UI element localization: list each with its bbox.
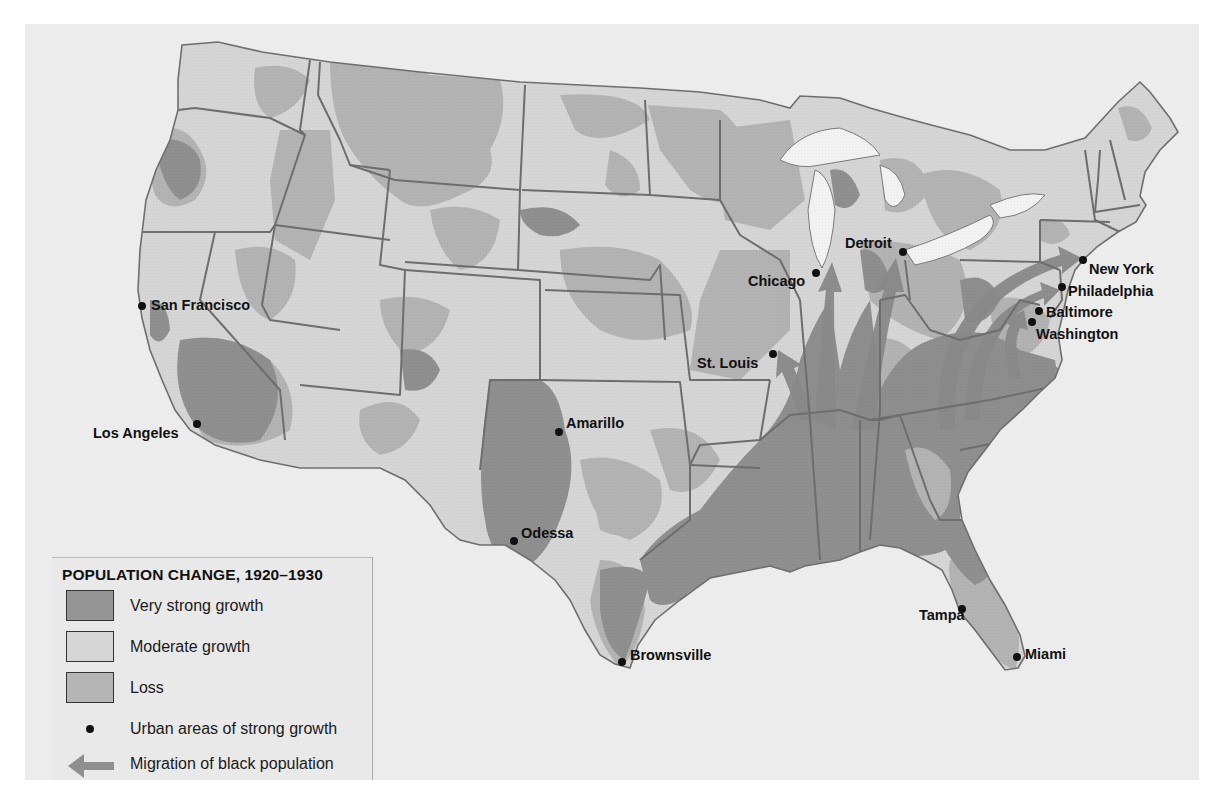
city-label-washington: Washington (1036, 327, 1118, 342)
city-label-chicago: Chicago (748, 274, 805, 289)
legend-item-urban-areas: Urban areas of strong growth (66, 713, 366, 747)
dot-icon (812, 269, 820, 277)
legend-label: Urban areas of strong growth (130, 720, 337, 738)
dot-icon (193, 420, 201, 428)
city-label-detroit: Detroit (845, 236, 892, 251)
moderate-growth-swatch-icon (66, 631, 114, 662)
dot-icon (618, 658, 626, 666)
dot-icon (1079, 256, 1087, 264)
dot-icon (1013, 653, 1021, 661)
dot-icon (1035, 307, 1043, 315)
loss-swatch-icon (66, 672, 114, 703)
city-label-miami: Miami (1025, 647, 1066, 662)
dot-icon (86, 725, 94, 733)
city-label-tampa: Tampa (919, 608, 965, 623)
city-label-amarillo: Amarillo (566, 416, 624, 431)
dot-icon (899, 248, 907, 256)
legend-item-moderate-growth: Moderate growth (66, 631, 366, 665)
city-label-new-york: New York (1089, 262, 1154, 277)
migration-arrow-icon (68, 754, 116, 778)
city-label-baltimore: Baltimore (1046, 305, 1113, 320)
city-label-st-louis: St. Louis (697, 356, 758, 371)
city-label-los-angeles: Los Angeles (93, 426, 179, 441)
dot-icon (555, 428, 563, 436)
legend-item-very-strong-growth: Very strong growth (66, 590, 366, 624)
legend-item-migration: Migration of black population (66, 748, 366, 782)
dot-icon (1058, 283, 1066, 291)
dot-icon (510, 537, 518, 545)
legend-label: Loss (130, 679, 164, 697)
legend-title: POPULATION CHANGE, 1920–1930 (62, 566, 323, 584)
legend-label: Migration of black population (130, 755, 334, 773)
city-label-san-francisco: San Francisco (151, 298, 250, 313)
legend-item-loss: Loss (66, 672, 366, 706)
dot-icon (1028, 318, 1036, 326)
city-label-brownsville: Brownsville (630, 648, 711, 663)
city-label-odessa: Odessa (521, 526, 573, 541)
very-strong-growth-swatch-icon (66, 590, 114, 621)
legend-label: Very strong growth (130, 597, 263, 615)
dot-icon (769, 350, 777, 358)
legend-label: Moderate growth (130, 638, 250, 656)
map-legend: POPULATION CHANGE, 1920–1930 Very strong… (52, 557, 373, 780)
dot-icon (138, 302, 146, 310)
city-label-philadelphia: Philadelphia (1068, 284, 1153, 299)
